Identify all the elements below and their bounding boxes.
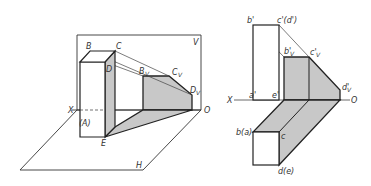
label-O-left: O: [204, 106, 210, 115]
label-E: E: [101, 139, 107, 148]
prism-front-view: [253, 25, 279, 100]
label-D: D: [106, 65, 112, 74]
label-V: V: [193, 38, 199, 47]
label-b-a: b(a): [236, 128, 252, 137]
label-X-right: X: [226, 96, 233, 105]
label-dv-sub: V: [347, 86, 352, 93]
descriptive-geometry-diagram: B C D (A) E B V C V D V V H X O b' c'(d': [0, 0, 371, 186]
prism-top-view: [253, 132, 279, 165]
label-O-right: O: [351, 96, 357, 105]
label-C: C: [116, 42, 122, 51]
shadow-front-view: [284, 57, 340, 100]
label-A: (A): [79, 119, 91, 128]
left-perspective-view: B C D (A) E B V C V D V V H X O: [20, 35, 210, 170]
label-Bv: B: [139, 67, 145, 76]
label-e-prime: e': [272, 91, 279, 100]
shadow-on-v-plane: [143, 76, 192, 110]
label-Dv-sub: V: [196, 89, 201, 96]
label-cv-sub: V: [316, 51, 321, 58]
label-c-prime-d-prime: c'(d'): [277, 16, 297, 25]
label-bv-sub: V: [290, 50, 295, 57]
label-c: c: [281, 132, 286, 141]
label-a-prime: a': [249, 91, 256, 100]
label-B: B: [86, 42, 92, 51]
label-d-e: d(e): [278, 167, 294, 176]
label-Cv-sub: V: [178, 71, 183, 78]
label-H: H: [136, 161, 142, 170]
right-orthographic-view: b' c'(d') b' V c' V d' V a' e' X O b(a) …: [226, 16, 357, 176]
label-b-prime: b': [247, 16, 254, 25]
label-X-left: X: [67, 106, 74, 115]
prism-right-face: [105, 51, 115, 137]
